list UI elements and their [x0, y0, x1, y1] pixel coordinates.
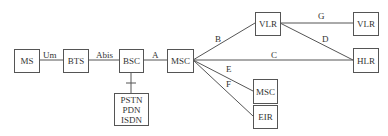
node-msc-label: MSC	[171, 56, 190, 66]
node-msc: MSC	[167, 49, 194, 73]
node-ms: MS	[14, 49, 40, 73]
interface-abis: Abis	[96, 50, 113, 60]
node-vlr-1: VLR	[255, 12, 281, 36]
node-pstn-label: PSTN PDN ISDN	[120, 95, 142, 125]
node-eir-label: EIR	[258, 112, 273, 122]
node-vlr-2-label: VLR	[357, 19, 375, 29]
connection-lines	[0, 0, 388, 136]
node-hlr: HLR	[353, 48, 379, 73]
interface-g: G	[318, 11, 325, 21]
interface-f: F	[226, 79, 231, 89]
interface-b: B	[215, 34, 221, 44]
node-msc-2-label: MSC	[256, 87, 275, 97]
interface-e: E	[226, 64, 232, 74]
node-vlr-1-label: VLR	[259, 19, 277, 29]
node-bsc-label: BSC	[123, 56, 140, 66]
node-bts-label: BTS	[68, 56, 85, 66]
node-bts: BTS	[63, 49, 89, 73]
node-vlr-2: VLR	[353, 12, 379, 36]
interface-a: A	[152, 50, 159, 60]
node-eir: EIR	[253, 105, 278, 129]
interface-um: Um	[43, 50, 57, 60]
interface-c: C	[271, 50, 277, 60]
node-msc-2: MSC	[253, 79, 278, 104]
node-hlr-label: HLR	[357, 56, 375, 66]
node-bsc: BSC	[119, 49, 144, 73]
interface-d: D	[322, 34, 329, 44]
node-ms-label: MS	[20, 56, 33, 66]
node-pstn-pdn-isdn: PSTN PDN ISDN	[114, 93, 149, 126]
